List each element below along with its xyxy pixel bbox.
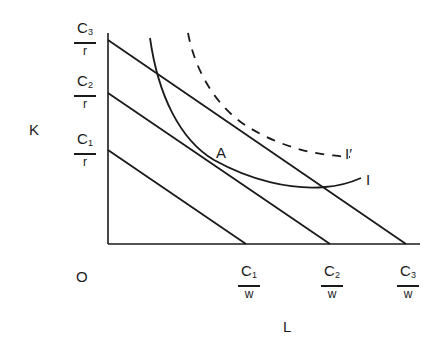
x-intercept-c3-over-w: C3 w [397,263,419,300]
isoquant-i-label: I [366,172,370,187]
x-intercept-c2-over-w: C2 w [321,263,343,300]
origin-label: O [76,269,88,284]
y-intercept-c3-over-r: C3 r [74,20,96,57]
isoquant-i-prime-label: I′ [345,146,352,161]
x-axis-label: L [283,319,291,334]
isocost-line-c3 [108,40,406,244]
isocost-isoquant-diagram [0,0,445,342]
x-intercept-c1-over-w: C1 w [238,263,260,300]
isoquant-i-curve [150,38,361,188]
y-axis-label: K [29,122,39,137]
point-a-label: A [216,145,226,160]
isocost-line-c1 [108,150,246,244]
y-intercept-c1-over-r: C1 r [74,131,96,168]
y-intercept-c2-over-r: C2 r [74,73,96,110]
isoquant-i-prime-curve [188,33,350,157]
